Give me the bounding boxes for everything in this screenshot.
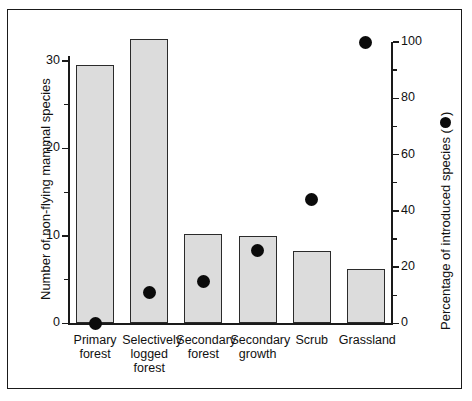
scatter-point bbox=[305, 193, 318, 206]
right-axis-spine bbox=[391, 42, 393, 325]
left-axis-minor-tick bbox=[64, 279, 68, 280]
right-axis-tick bbox=[393, 323, 399, 324]
right-axis-tick-label: 20 bbox=[401, 260, 415, 273]
bar bbox=[130, 39, 168, 323]
left-axis-spine bbox=[68, 56, 70, 325]
right-axis-tick-label: 100 bbox=[401, 35, 422, 48]
left-axis-tick bbox=[62, 60, 68, 61]
category-label: Scrub bbox=[285, 333, 339, 347]
left-axis-tick-label: 30 bbox=[46, 54, 60, 67]
bottom-axis-spine bbox=[68, 323, 393, 325]
scatter-point bbox=[89, 317, 102, 330]
right-axis-tick-label: 0 bbox=[401, 316, 408, 329]
plot-area: 0102030 020406080100 bbox=[68, 42, 393, 325]
right-axis-tick bbox=[393, 266, 399, 267]
right-axis-minor-tick bbox=[393, 126, 397, 127]
right-y-axis-title-suffix: ) bbox=[438, 112, 453, 116]
figure-canvas: Number of non-flying mammal species Perc… bbox=[0, 0, 472, 401]
filled-circle-marker-legend-icon bbox=[440, 117, 451, 128]
left-axis-minor-tick bbox=[64, 104, 68, 105]
scatter-point bbox=[197, 275, 210, 288]
right-axis-minor-tick bbox=[393, 238, 397, 239]
category-label: Grassland bbox=[339, 333, 393, 347]
right-y-axis-title-text: Percentage of introduced species ( bbox=[438, 129, 453, 330]
right-axis-tick bbox=[393, 98, 399, 99]
right-axis-minor-tick bbox=[393, 182, 397, 183]
scatter-point bbox=[251, 244, 264, 257]
scatter-point bbox=[143, 286, 156, 299]
bar bbox=[76, 65, 114, 323]
left-axis-tick-label: 20 bbox=[46, 141, 60, 154]
left-axis-minor-tick bbox=[64, 192, 68, 193]
right-axis-tick-label: 60 bbox=[401, 148, 415, 161]
category-label: Secondary growth bbox=[231, 333, 285, 361]
left-axis-tick bbox=[62, 235, 68, 236]
right-axis-tick bbox=[393, 210, 399, 211]
category-label: Primary forest bbox=[68, 333, 122, 361]
bar bbox=[293, 251, 331, 324]
left-axis-tick-label: 0 bbox=[53, 316, 60, 329]
left-axis-tick bbox=[62, 323, 68, 324]
right-axis-tick-label: 80 bbox=[401, 91, 415, 104]
right-y-axis-title: Percentage of introduced species () bbox=[438, 112, 453, 330]
right-axis-minor-tick bbox=[393, 69, 397, 70]
right-axis-tick-label: 40 bbox=[401, 204, 415, 217]
bar bbox=[347, 269, 385, 323]
left-axis-tick bbox=[62, 148, 68, 149]
right-axis-tick bbox=[393, 41, 399, 42]
scatter-point bbox=[359, 36, 372, 49]
left-axis-tick-label: 10 bbox=[46, 229, 60, 242]
left-y-axis-title: Number of non-flying mammal species bbox=[38, 78, 53, 300]
right-axis-minor-tick bbox=[393, 295, 397, 296]
category-label: Selectively logged forest bbox=[122, 333, 176, 375]
category-label: Secondary forest bbox=[176, 333, 230, 361]
right-axis-tick bbox=[393, 154, 399, 155]
